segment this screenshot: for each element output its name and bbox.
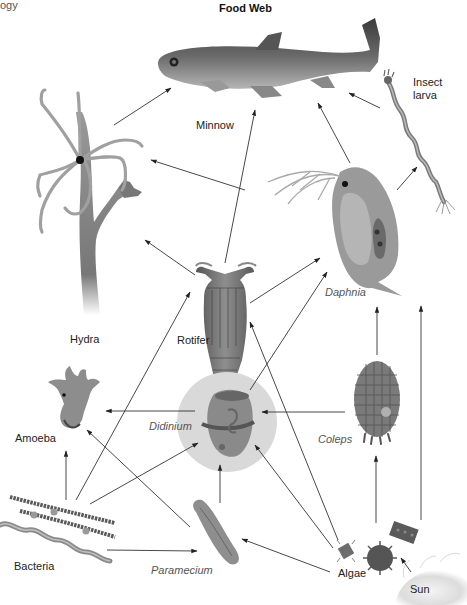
label-rotifer: Rotifer <box>177 334 209 346</box>
label-daphnia: Daphnia <box>325 286 366 298</box>
arrow-algae-to-didinium <box>255 445 333 548</box>
arrow-daphnia-to-minnow <box>318 103 350 163</box>
bacteria-illustration <box>0 497 115 561</box>
label-coleps: Coleps <box>318 433 352 445</box>
didinium-illustration <box>177 372 277 472</box>
arrow-bacteria-to-didinium <box>90 443 198 504</box>
label-paramecium: Paramecium <box>151 564 213 576</box>
food-web-diagram <box>0 0 467 605</box>
label-insect-larva: Insect larva <box>413 76 442 102</box>
arrow-hydra-to-minnow <box>114 88 171 125</box>
daphnia-illustration <box>268 167 402 296</box>
label-algae: Algae <box>338 567 366 579</box>
coleps-illustration <box>354 361 400 444</box>
label-hydra: Hydra <box>70 333 99 345</box>
label-insect-larva-line2: larva <box>413 89 442 102</box>
arrow-didinium-to-daphnia <box>250 272 327 390</box>
minnow-illustration <box>158 18 380 98</box>
arrow-larva-to-minnow <box>349 93 380 108</box>
arrow-bacteria-to-paramecium <box>107 550 197 551</box>
arrow-daphnia-to-hydra <box>151 160 245 190</box>
label-sun: Sun <box>410 583 430 595</box>
arrow-daphnia-to-larva <box>397 167 417 190</box>
label-insect-larva-line1: Insect <box>413 76 442 89</box>
label-didinium: Didinium <box>149 420 192 432</box>
hydra-illustration <box>38 90 142 315</box>
amoeba-illustration <box>48 366 100 428</box>
arrow-paramecium-to-amoeba <box>87 430 190 527</box>
arrow-rotifer-to-daphnia <box>250 258 320 303</box>
arrow-algae-to-paramecium <box>242 539 330 572</box>
label-bacteria: Bacteria <box>14 560 54 572</box>
label-amoeba: Amoeba <box>15 432 56 444</box>
arrow-rotifer-to-minnow <box>225 110 255 263</box>
paramecium-illustration <box>193 500 239 565</box>
sun-illustration <box>395 553 467 605</box>
label-minnow: Minnow <box>196 119 234 131</box>
arrow-bacteria-to-rotifer <box>76 292 190 500</box>
arrow-rotifer-to-hydra <box>145 240 195 275</box>
